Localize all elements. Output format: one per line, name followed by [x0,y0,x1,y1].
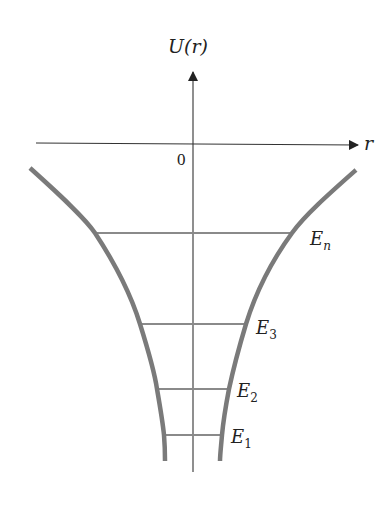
y-axis-label: U(r) [168,35,208,57]
energy-label-3: E3 [255,317,277,342]
energy-label-2: E2 [236,380,258,405]
energy-label-n: En [309,228,331,253]
potential-well-diagram: U(r) r 0 En E3 E2 E1 [0,0,384,511]
x-axis [36,143,358,145]
x-axis-label: r [364,132,375,154]
diagram-canvas: U(r) r 0 En E3 E2 E1 [0,0,384,511]
origin-label: 0 [177,150,186,169]
energy-label-1: E1 [230,426,252,451]
potential-curve-left [30,168,165,461]
potential-curve-right [220,170,356,461]
